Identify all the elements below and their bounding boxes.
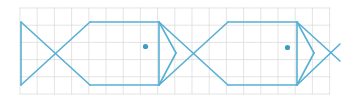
figure-canvas bbox=[0, 0, 344, 102]
fish-3-tail-partial-segment bbox=[297, 44, 340, 85]
fish-3-tail-partial-segment bbox=[297, 22, 340, 61]
fish-2-eye bbox=[285, 45, 290, 50]
figure-layer bbox=[21, 22, 340, 85]
fish-1-body-segment bbox=[159, 53, 176, 85]
fish-1-body bbox=[90, 22, 176, 85]
fish-1-body-segment bbox=[159, 22, 176, 53]
fish-tessellation-svg bbox=[0, 0, 344, 102]
fish-2-body-segment bbox=[297, 22, 314, 53]
fish-1-tail bbox=[21, 22, 90, 85]
fish-2-body-segment bbox=[297, 53, 314, 85]
fish-3-tail-partial bbox=[297, 22, 340, 85]
fish-2-tail bbox=[159, 22, 228, 85]
fish-1-eye bbox=[143, 44, 148, 49]
fish-2-body bbox=[228, 22, 314, 85]
